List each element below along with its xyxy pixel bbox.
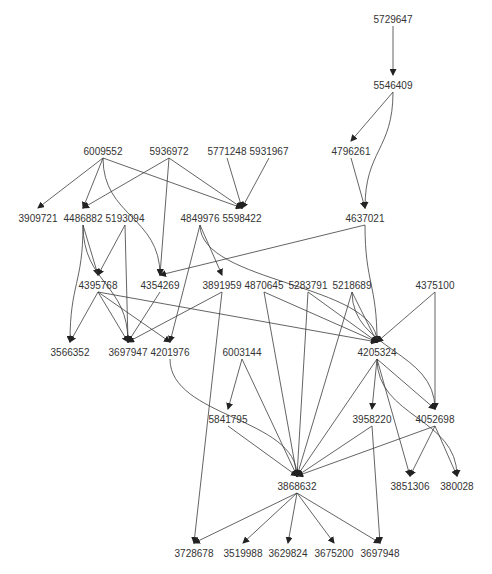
node-4375100: 4375100 — [416, 280, 455, 291]
node-5193094: 5193094 — [106, 213, 145, 224]
node-4796261: 4796261 — [332, 146, 371, 157]
edge-3868632-3728678 — [194, 493, 297, 543]
edge-4395768-3697947 — [98, 292, 128, 342]
edge-4870645-3868632 — [264, 292, 297, 476]
edge-4354269-3697947 — [128, 292, 160, 342]
edge-5841795-3868632 — [228, 426, 297, 476]
node-3566352: 3566352 — [51, 347, 90, 358]
edge-5283791-3868632 — [297, 292, 308, 476]
node-4870645: 4870645 — [245, 280, 284, 291]
edge-4052698-3868632 — [297, 426, 435, 476]
node-3851306: 3851306 — [391, 481, 430, 492]
node-5598422: 5598422 — [223, 213, 262, 224]
edge-3868632-3675200 — [297, 493, 334, 543]
node-4637021: 4637021 — [346, 213, 385, 224]
node-3519988: 3519988 — [224, 548, 263, 559]
node-5218689: 5218689 — [333, 280, 372, 291]
edge-4486882-4395768 — [83, 225, 98, 275]
node-3697947: 3697947 — [109, 347, 148, 358]
node-5283791: 5283791 — [289, 280, 328, 291]
nodes-layer: 5729647554640947962616009552593697257712… — [19, 14, 475, 559]
node-3629824: 3629824 — [269, 548, 308, 559]
node-3697948: 3697948 — [361, 548, 400, 559]
node-3675200: 3675200 — [315, 548, 354, 559]
node-4395768: 4395768 — [79, 280, 118, 291]
node-3958220: 3958220 — [353, 414, 392, 425]
edge-4870645-4205324 — [264, 292, 377, 342]
node-6009552: 6009552 — [84, 146, 123, 157]
edge-3958220-3697948 — [372, 426, 380, 543]
edge-4205324-4052698 — [377, 359, 435, 409]
edge-5283791-4205324 — [308, 292, 377, 342]
node-380028: 380028 — [440, 481, 474, 492]
edge-3868632-3519988 — [243, 493, 297, 543]
node-4201976: 4201976 — [151, 347, 190, 358]
edge-5771248-5598422 — [227, 158, 242, 208]
edge-4395768-4205324 — [98, 292, 377, 342]
node-6003144: 6003144 — [223, 347, 262, 358]
node-4052698: 4052698 — [416, 414, 455, 425]
edge-4849976-3891959 — [200, 225, 222, 275]
node-4205324: 4205324 — [358, 347, 397, 358]
node-4849976: 4849976 — [181, 213, 220, 224]
edge-5218689-3868632 — [297, 292, 352, 476]
edge-5546409-4796261 — [351, 92, 393, 141]
node-5729647: 5729647 — [374, 14, 413, 25]
node-4354269: 4354269 — [141, 280, 180, 291]
node-5936972: 5936972 — [150, 146, 189, 157]
edge-5936972-4354269 — [160, 158, 169, 275]
node-3728678: 3728678 — [175, 548, 214, 559]
node-5546409: 5546409 — [374, 80, 413, 91]
edge-4395768-3566352 — [70, 292, 98, 342]
node-3891959: 3891959 — [203, 280, 242, 291]
node-4486882: 4486882 — [64, 213, 103, 224]
edge-6009552-5598422 — [103, 158, 242, 208]
edge-4395768-4201976 — [98, 292, 170, 342]
edge-3958220-3868632 — [297, 426, 372, 476]
node-5931967: 5931967 — [250, 146, 289, 157]
edge-4205324-3958220 — [372, 359, 377, 409]
node-3909721: 3909721 — [19, 213, 58, 224]
node-5841795: 5841795 — [209, 414, 248, 425]
edge-4052698-380028 — [435, 426, 457, 476]
edge-6003144-3868632 — [242, 359, 297, 476]
node-5771248: 5771248 — [208, 146, 247, 157]
edge-6003144-5841795 — [228, 359, 242, 409]
edge-4796261-4637021 — [351, 158, 365, 208]
edge-5936972-4486882 — [83, 158, 169, 208]
directed-graph: 5729647554640947962616009552593697257712… — [0, 0, 492, 574]
edge-4375100-4205324 — [377, 292, 435, 342]
edge-5193094-4395768 — [98, 225, 125, 275]
edge-5931967-5598422 — [242, 158, 269, 208]
edge-5936972-5598422 — [169, 158, 242, 208]
node-3868632: 3868632 — [278, 481, 317, 492]
edge-4637021-4354269 — [160, 225, 365, 275]
edge-3868632-3697948 — [297, 493, 380, 543]
